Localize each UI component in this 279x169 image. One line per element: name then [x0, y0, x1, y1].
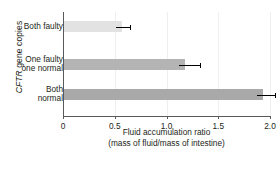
error-bar-cap [130, 25, 131, 30]
gridline [270, 12, 271, 116]
x-tick-mark [218, 116, 219, 119]
error-bar-line [116, 27, 130, 28]
error-bar-line [257, 95, 275, 96]
bar [64, 89, 263, 100]
plot-area: 00.51.01.52.0 [63, 12, 270, 116]
x-tick-mark [63, 116, 64, 119]
category-label-both-normal: Both normal [1, 85, 63, 104]
bar [64, 59, 185, 70]
category-label-both-faulty: Both faulty [1, 22, 63, 32]
x-axis-title-sub: (mass of fluid/mass of intestine) [63, 138, 270, 149]
error-bar-line [179, 65, 199, 66]
x-tick-mark [270, 116, 271, 119]
gridline [218, 12, 219, 116]
bar-chart-figure: CFTR gene copies Both faulty One faulty … [0, 0, 279, 169]
x-axis-title: Fluid accumulation ratio (mass of fluid/… [63, 127, 270, 148]
x-tick-mark [115, 116, 116, 119]
x-tick-mark [167, 116, 168, 119]
x-axis-title-main: Fluid accumulation ratio [63, 127, 270, 138]
bar [64, 21, 122, 32]
error-bar-cap [200, 63, 201, 68]
category-label-one-faulty-one-normal: One faulty one normal [1, 55, 63, 74]
error-bar-cap [275, 93, 276, 98]
y-axis-line [63, 12, 64, 116]
